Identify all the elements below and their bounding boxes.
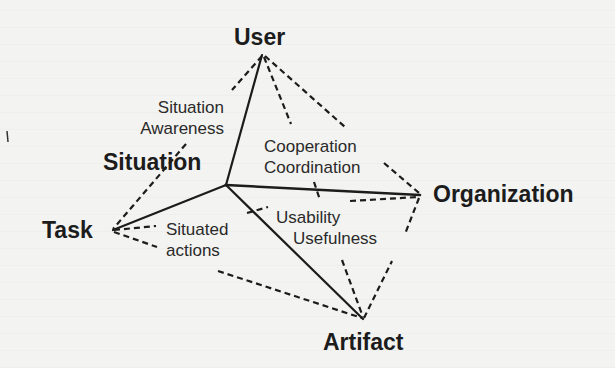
label-cooperation-coordination: Cooperation Coordination bbox=[264, 136, 360, 178]
dashed-organization-artifact bbox=[405, 198, 419, 234]
dashed-artifact-organization bbox=[364, 261, 392, 318]
edge-hub-user bbox=[226, 55, 262, 185]
dashed-user-cooperation bbox=[264, 57, 291, 124]
label-coordination: Coordination bbox=[264, 157, 360, 178]
node-situation: Situation bbox=[103, 151, 201, 174]
node-user: User bbox=[234, 26, 285, 49]
edge-hub-artifact bbox=[226, 185, 363, 319]
dashed-usability-organization bbox=[350, 197, 418, 201]
label-usefulness: Usefulness bbox=[276, 228, 377, 249]
dashed-actions-artifact bbox=[218, 271, 362, 318]
label-situation-awareness: Situation Awareness bbox=[124, 97, 224, 139]
label-situation-awareness-line1: Situation bbox=[124, 97, 224, 118]
label-situation-awareness-line2: Awareness bbox=[124, 118, 224, 139]
node-artifact: Artifact bbox=[323, 331, 404, 354]
edge-hub-organization bbox=[226, 185, 420, 195]
hub-point bbox=[225, 184, 228, 187]
dashed-user-organization bbox=[265, 56, 345, 127]
label-situated-actions: Situated actions bbox=[166, 219, 228, 261]
dashed-task-actions bbox=[114, 232, 157, 247]
label-actions: actions bbox=[166, 240, 228, 261]
dashed-coordination-organization bbox=[384, 163, 419, 193]
node-organization: Organization bbox=[433, 183, 574, 206]
label-situated: Situated bbox=[166, 219, 228, 240]
node-task: Task bbox=[42, 219, 93, 242]
label-cooperation: Cooperation bbox=[264, 136, 360, 157]
stray-mark bbox=[7, 131, 8, 142]
label-usability: Usability bbox=[276, 207, 377, 228]
label-usability-usefulness: Usability Usefulness bbox=[276, 207, 377, 249]
